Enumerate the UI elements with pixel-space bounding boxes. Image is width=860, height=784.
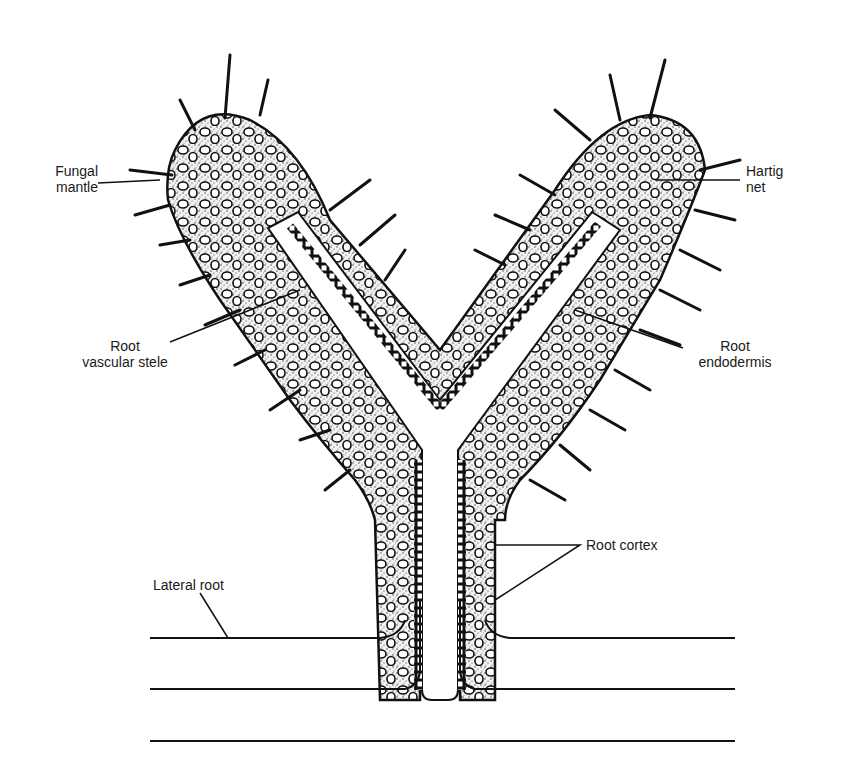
label-hartig-net: Hartig net [746,163,783,195]
root-endodermis-line1: Root [680,338,790,354]
fungal-mantle-line1: Fungal [40,163,98,179]
mycorrhiza-diagram [0,0,860,784]
label-lateral-root: Lateral root [153,577,224,593]
vascular-stele [268,212,620,700]
label-root-vascular-stele: Root vascular stele [60,338,190,370]
hartig-net-line2: net [746,179,783,195]
fungal-mantle-line2: mantle [40,179,98,195]
label-root-endodermis: Root endodermis [680,338,790,370]
root-vascular-stele-line1: Root [60,338,190,354]
label-root-cortex: Root cortex [586,537,658,553]
label-fungal-mantle: Fungal mantle [40,163,98,195]
hartig-net-line1: Hartig [746,163,783,179]
root-cortex-line1: Root cortex [586,537,658,553]
root-endodermis-line2: endodermis [680,354,790,370]
lateral-root-line1: Lateral root [153,577,224,593]
root-vascular-stele-line2: vascular stele [60,354,190,370]
